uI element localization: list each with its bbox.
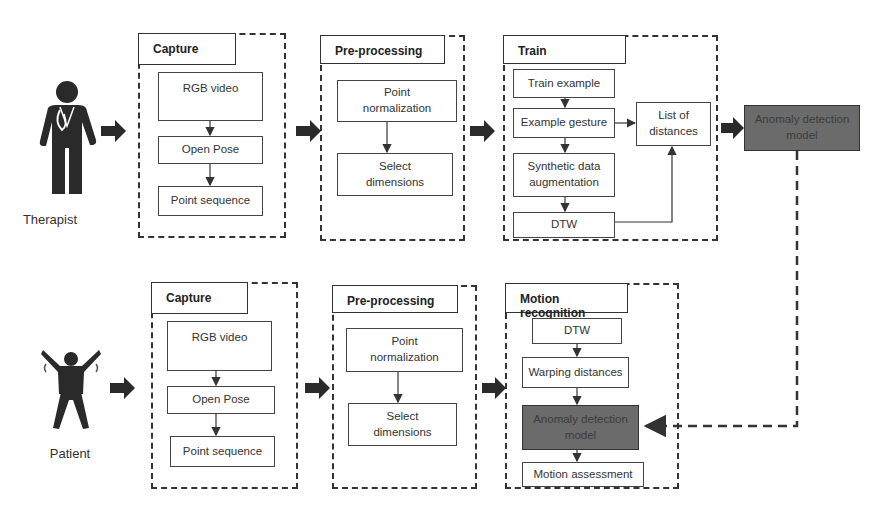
model-transfer-connector	[646, 151, 797, 426]
block-arrow-icon	[101, 117, 744, 399]
connectors-layer	[0, 0, 896, 513]
